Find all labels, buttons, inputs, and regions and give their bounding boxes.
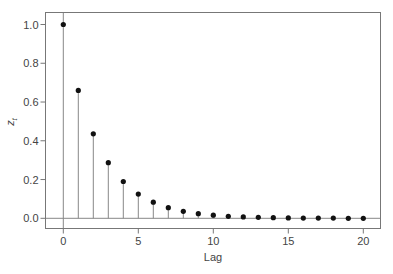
plot-area bbox=[46, 13, 381, 229]
data-point-marker bbox=[91, 131, 96, 136]
y-axis-title-sub: t bbox=[10, 117, 19, 120]
data-point-marker bbox=[346, 216, 351, 221]
data-point-marker bbox=[181, 209, 186, 214]
data-point-marker bbox=[316, 216, 321, 221]
x-tick-label: 0 bbox=[60, 235, 66, 247]
y-tick-label: 0.8 bbox=[23, 57, 38, 69]
axes: 051015200.00.20.40.60.81.0 bbox=[23, 13, 380, 248]
data-point-marker bbox=[256, 215, 261, 220]
data-point-marker bbox=[241, 214, 246, 219]
y-tick-label: 0.4 bbox=[23, 135, 38, 147]
x-tick-label: 10 bbox=[207, 235, 219, 247]
plot-frame bbox=[46, 13, 381, 229]
data-point-marker bbox=[211, 213, 216, 218]
data-point-marker bbox=[61, 22, 66, 27]
y-tick-label: 0.0 bbox=[23, 212, 38, 224]
svg-text:zt: zt bbox=[4, 117, 19, 127]
data-point-marker bbox=[136, 191, 141, 196]
x-tick-label: 20 bbox=[357, 235, 369, 247]
data-point-marker bbox=[106, 160, 111, 165]
data-point-marker bbox=[166, 205, 171, 210]
data-point-marker bbox=[151, 200, 156, 205]
data-point-marker bbox=[76, 88, 81, 93]
data-point-marker bbox=[301, 216, 306, 221]
y-tick-label: 0.6 bbox=[23, 96, 38, 108]
data-point-marker bbox=[286, 215, 291, 220]
y-tick-label: 0.2 bbox=[23, 174, 38, 186]
stem-chart: 051015200.00.20.40.60.81.0 Lag zt bbox=[0, 0, 393, 274]
data-point-marker bbox=[226, 214, 231, 219]
y-axis-title: zt bbox=[4, 117, 19, 127]
data-point-marker bbox=[271, 215, 276, 220]
data-point-marker bbox=[361, 216, 366, 221]
x-tick-label: 5 bbox=[135, 235, 141, 247]
x-axis-title: Lag bbox=[204, 251, 222, 263]
data-point-marker bbox=[196, 211, 201, 216]
y-tick-label: 1.0 bbox=[23, 19, 38, 31]
data-point-marker bbox=[121, 179, 126, 184]
data-point-marker bbox=[331, 216, 336, 221]
x-tick-label: 15 bbox=[282, 235, 294, 247]
